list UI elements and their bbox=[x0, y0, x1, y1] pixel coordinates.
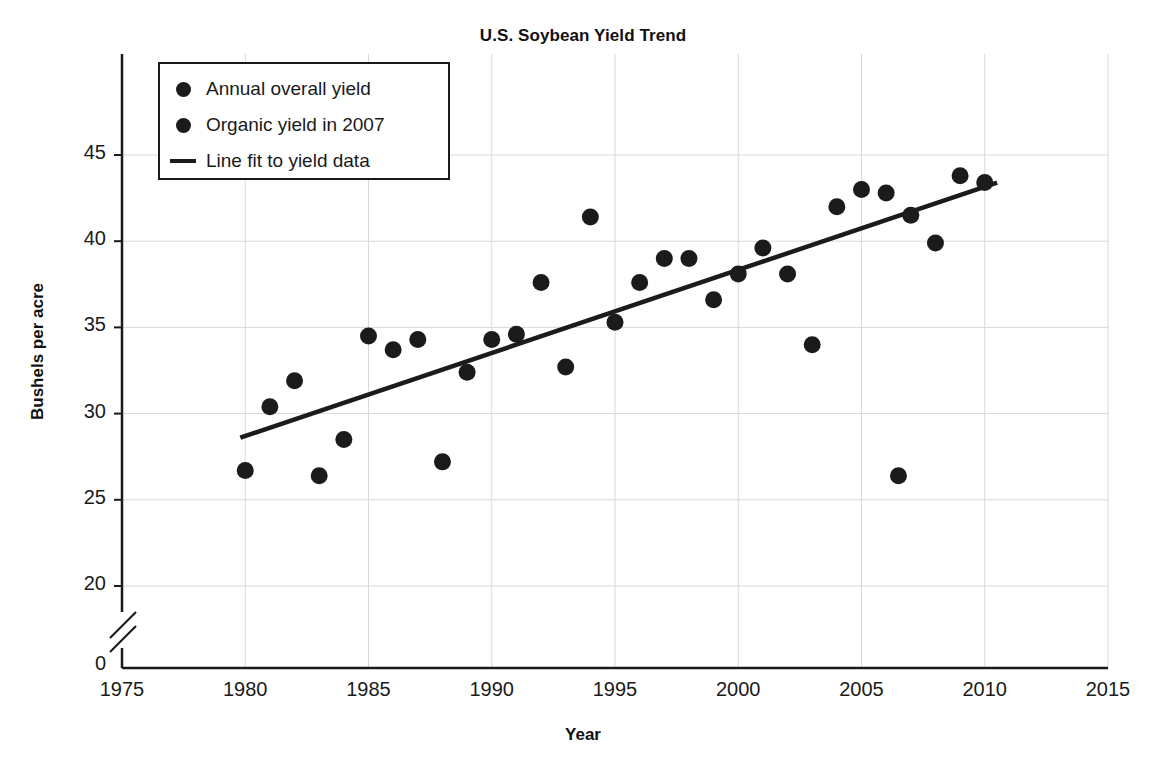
x-tick-label: 1990 bbox=[437, 678, 547, 701]
x-tick-label: 1985 bbox=[314, 678, 424, 701]
data-point[interactable] bbox=[680, 250, 697, 267]
legend-label: Line fit to yield data bbox=[206, 150, 370, 172]
data-point[interactable] bbox=[878, 184, 895, 201]
y-tick-label: 30 bbox=[44, 400, 106, 423]
chart-container: U.S. Soybean Yield Trend Bushels per acr… bbox=[0, 0, 1166, 769]
fit-line-segment bbox=[240, 183, 997, 438]
legend-line-swatch bbox=[170, 159, 196, 163]
data-point[interactable] bbox=[434, 453, 451, 470]
y-tick-label: 40 bbox=[44, 227, 106, 250]
data-point[interactable] bbox=[385, 341, 402, 358]
data-point[interactable] bbox=[286, 372, 303, 389]
data-point[interactable] bbox=[976, 174, 993, 191]
legend-item[interactable]: Annual overall yield bbox=[160, 70, 452, 108]
fit-line bbox=[240, 183, 997, 438]
legend-dot-swatch bbox=[176, 118, 191, 133]
legend-swatch bbox=[160, 159, 206, 163]
data-point[interactable] bbox=[311, 467, 328, 484]
x-tick-label: 1980 bbox=[190, 678, 300, 701]
y-tick-label: 25 bbox=[44, 486, 106, 509]
data-point[interactable] bbox=[335, 431, 352, 448]
x-tick-label: 2010 bbox=[930, 678, 1040, 701]
data-point[interactable] bbox=[261, 398, 278, 415]
data-point[interactable] bbox=[237, 462, 254, 479]
legend-label: Organic yield in 2007 bbox=[206, 114, 385, 136]
data-point[interactable] bbox=[459, 364, 476, 381]
data-point[interactable] bbox=[631, 274, 648, 291]
chart-legend: Annual overall yieldOrganic yield in 200… bbox=[158, 62, 450, 180]
y-tick-label: 20 bbox=[44, 572, 106, 595]
data-point[interactable] bbox=[557, 359, 574, 376]
data-point[interactable] bbox=[754, 240, 771, 257]
x-axis-title: Year bbox=[0, 725, 1166, 745]
data-point[interactable] bbox=[804, 336, 821, 353]
legend-swatch bbox=[160, 118, 206, 133]
x-tick-label: 1995 bbox=[560, 678, 670, 701]
legend-item[interactable]: Line fit to yield data bbox=[160, 142, 452, 180]
data-point[interactable] bbox=[656, 250, 673, 267]
axis-break-slash bbox=[110, 612, 136, 638]
data-point[interactable] bbox=[828, 198, 845, 215]
data-point[interactable] bbox=[508, 326, 525, 343]
data-point[interactable] bbox=[607, 314, 624, 331]
data-point[interactable] bbox=[409, 331, 426, 348]
data-point[interactable] bbox=[533, 274, 550, 291]
y-tick-label: 45 bbox=[44, 141, 106, 164]
data-point[interactable] bbox=[360, 328, 377, 345]
legend-label: Annual overall yield bbox=[206, 78, 371, 100]
data-point[interactable] bbox=[890, 467, 907, 484]
x-tick-label: 2005 bbox=[807, 678, 917, 701]
data-point[interactable] bbox=[730, 265, 747, 282]
data-point[interactable] bbox=[705, 291, 722, 308]
data-point[interactable] bbox=[927, 234, 944, 251]
legend-dot-swatch bbox=[176, 82, 191, 97]
x-tick-label: 2015 bbox=[1053, 678, 1163, 701]
data-point[interactable] bbox=[779, 265, 796, 282]
legend-item[interactable]: Organic yield in 2007 bbox=[160, 106, 452, 144]
x-tick-label: 2000 bbox=[683, 678, 793, 701]
data-point[interactable] bbox=[853, 181, 870, 198]
data-point[interactable] bbox=[483, 331, 500, 348]
data-point[interactable] bbox=[582, 209, 599, 226]
legend-swatch bbox=[160, 82, 206, 97]
data-point[interactable] bbox=[902, 207, 919, 224]
data-point[interactable] bbox=[952, 167, 969, 184]
y-tick-label: 35 bbox=[44, 313, 106, 336]
y-tick-label-zero: 0 bbox=[44, 652, 106, 675]
x-tick-label: 1975 bbox=[67, 678, 177, 701]
